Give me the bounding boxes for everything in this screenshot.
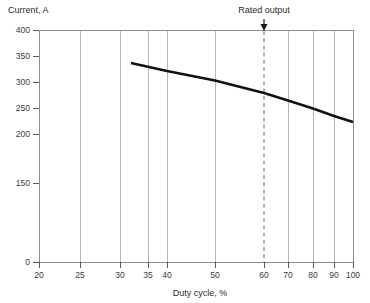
xtick-label-70: 70 (283, 270, 293, 280)
ytick-label-350: 350 (16, 51, 30, 61)
ytick-label-0: 0 (25, 257, 30, 267)
xtick-label-100: 100 (346, 270, 360, 280)
xtick-label-90: 90 (329, 270, 339, 280)
x-axis-title: Duty cycle, % (173, 288, 228, 298)
xtick-label-25: 25 (75, 270, 85, 280)
xtick-label-60: 60 (259, 270, 269, 280)
ytick-label-300: 300 (16, 77, 30, 87)
ytick-label-250: 250 (16, 103, 30, 113)
xtick-label-30: 30 (115, 270, 125, 280)
ytick-label-400: 400 (16, 25, 30, 35)
rated-output-label: Rated output (238, 5, 290, 15)
xtick-label-50: 50 (210, 270, 220, 280)
xtick-label-40: 40 (162, 270, 172, 280)
xtick-label-20: 20 (34, 270, 44, 280)
current-vs-duty-cycle-chart: 400 350 300 250 200 150 0 20 25 30 35 40… (0, 0, 370, 303)
ytick-label-200: 200 (16, 129, 30, 139)
xtick-label-80: 80 (308, 270, 318, 280)
plot-background (39, 30, 353, 262)
rated-output-arrow-icon (261, 19, 268, 31)
xtick-label-35: 35 (143, 270, 153, 280)
y-axis-title: Current, A (8, 5, 49, 15)
y-axis-ticks (33, 30, 39, 262)
chart-page: 400 350 300 250 200 150 0 20 25 30 35 40… (0, 0, 370, 303)
x-axis-ticks (39, 262, 353, 268)
ytick-label-150: 150 (16, 178, 30, 188)
